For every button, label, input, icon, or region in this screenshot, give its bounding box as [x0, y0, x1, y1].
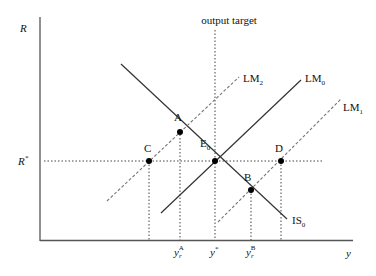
- output-target-label: output target: [201, 14, 257, 26]
- point-b: [248, 187, 254, 193]
- point-c: [146, 158, 152, 164]
- point-a-label: A: [174, 111, 182, 123]
- x-axis-label: y: [345, 247, 351, 259]
- is-lm-diagram: R y R* output target LM2 LM0 LM1 IS0 A C…: [0, 0, 376, 276]
- lm1-label: LM1: [343, 101, 364, 116]
- point-e0: [212, 158, 218, 164]
- lm0-label: LM0: [305, 72, 326, 87]
- point-d: [278, 158, 284, 164]
- tick-ystar: y*: [209, 245, 219, 258]
- r-star-label: R*: [17, 154, 29, 167]
- point-c-label: C: [144, 142, 151, 154]
- tick-yA: yrA: [173, 244, 184, 260]
- point-d-label: D: [275, 142, 283, 154]
- point-e0-label: E0: [200, 137, 211, 152]
- is0-label: IS0: [292, 214, 306, 229]
- lm2-curve: [107, 77, 239, 201]
- point-b-label: B: [244, 171, 251, 183]
- tick-yB: yrB: [245, 244, 256, 260]
- lm2-label: LM2: [243, 72, 264, 87]
- point-a: [177, 129, 183, 135]
- y-axis-label: R: [19, 22, 27, 34]
